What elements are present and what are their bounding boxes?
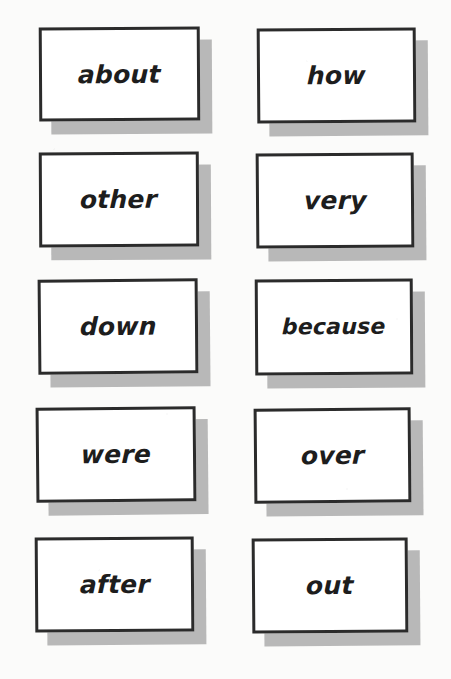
card-face: very [256,152,415,248]
flashcard-after[interactable]: after [35,536,195,632]
flashcard-were[interactable]: were [36,406,197,503]
flashcard-grid: about how other very down because [0,0,451,679]
card-face: were [36,406,197,503]
flashcard-about[interactable]: about [39,27,201,122]
card-word: out [306,573,354,598]
card-word: other [80,187,158,212]
card-face: after [35,536,195,632]
flashcard-because[interactable]: because [255,279,414,376]
card-face: how [257,27,417,123]
flashcard-other[interactable]: other [39,152,199,248]
flashcard-down[interactable]: down [38,278,199,374]
card-word: after [79,572,150,597]
card-word: were [81,442,152,468]
card-word: about [78,61,161,87]
card-face: because [255,279,414,376]
flashcard-out[interactable]: out [252,537,409,633]
card-word: very [303,188,366,213]
card-word: how [307,63,366,88]
card-word: because [282,316,386,339]
card-word: down [79,314,156,340]
card-word: over [300,443,364,469]
flashcard-over[interactable]: over [254,407,412,503]
card-face: other [39,152,199,248]
card-face: over [254,407,412,503]
flashcard-very[interactable]: very [256,152,415,248]
card-face: out [252,537,409,633]
flashcard-how[interactable]: how [257,27,417,123]
card-face: down [38,278,199,374]
card-face: about [39,27,201,122]
